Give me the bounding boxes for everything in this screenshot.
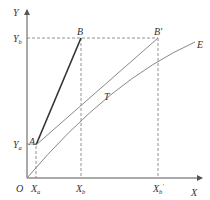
- point-e-label: E: [196, 39, 203, 50]
- diagram-canvas: Y X O B B' A T E Yb Ya Xa Xb Xb': [0, 0, 210, 200]
- point-b-prime-label: B': [154, 26, 163, 37]
- point-a-label: A: [28, 136, 36, 147]
- line-ab-prime: [36, 38, 158, 145]
- ya-tick-label: Ya: [13, 139, 22, 151]
- point-b-label: B: [77, 26, 83, 37]
- y-axis-label: Y: [13, 7, 20, 18]
- xb-tick-label: Xb: [75, 183, 86, 195]
- origin-label: O: [16, 183, 23, 194]
- x-axis-label: X: [190, 187, 198, 198]
- xa-tick-label: Xa: [30, 183, 40, 195]
- yb-tick-label: Yb: [13, 33, 23, 45]
- xb-prime-tick-label: Xb': [152, 182, 164, 195]
- line-ab: [36, 38, 81, 145]
- equilibrium-curve-oe: [27, 42, 195, 178]
- point-t-label: T: [104, 91, 111, 102]
